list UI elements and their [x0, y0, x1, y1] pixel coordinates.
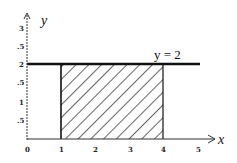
x-tick-3: 3: [128, 145, 133, 154]
line-label: y = 2: [154, 47, 181, 62]
y-tick-1.5: .5: [17, 78, 24, 87]
y-tick-3: 3: [19, 24, 24, 33]
y-tick-1: 1: [19, 98, 24, 107]
x-tick-0: 0: [25, 145, 30, 154]
y-tick-2.5: .5: [17, 42, 24, 51]
y-axis-label: y: [39, 13, 48, 28]
y-tick-0.5: .5: [17, 116, 24, 125]
shaded-region: [61, 64, 163, 139]
x-tick-2: 2: [93, 145, 98, 154]
x-axis-label: x: [217, 132, 225, 147]
x-tick-5: 5: [196, 145, 201, 154]
x-tick-1: 1: [59, 145, 64, 154]
y-tick-2: 2: [19, 60, 24, 69]
x-tick-4: 4: [161, 145, 166, 154]
chart: y x y = 2 3 .5 2 .5 1 .5 0 1 2 3 4 5: [0, 0, 237, 163]
